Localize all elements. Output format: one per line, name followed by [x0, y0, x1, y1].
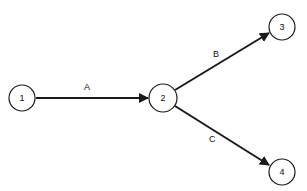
- node-1: 1: [9, 85, 35, 111]
- node-label-4: 4: [279, 167, 284, 177]
- node-4: 4: [269, 159, 295, 185]
- edge-c: C: [175, 106, 269, 165]
- edge-label-c: C: [209, 134, 216, 144]
- edge-b: B: [175, 33, 269, 90]
- node-3: 3: [269, 14, 295, 40]
- edge-a: A: [36, 82, 148, 98]
- network-diagram: A B C 1 2 3 4: [0, 0, 307, 191]
- node-label-3: 3: [279, 22, 284, 32]
- edge-label-b: B: [213, 49, 219, 59]
- edge-label-a: A: [84, 82, 90, 92]
- node-label-2: 2: [160, 93, 165, 103]
- node-2: 2: [149, 84, 177, 112]
- node-label-1: 1: [19, 93, 24, 103]
